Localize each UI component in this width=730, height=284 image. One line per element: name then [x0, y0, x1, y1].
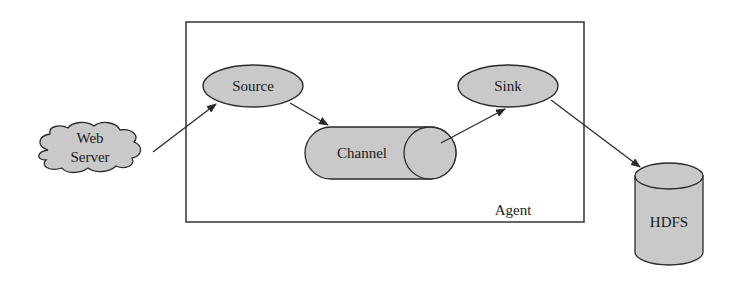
- channel-node: Channel: [305, 127, 456, 179]
- edge-webserver-to-source: [153, 104, 216, 152]
- web-server-node: Web Server: [39, 122, 141, 172]
- hdfs-node: HDFS: [635, 163, 703, 265]
- sink-label: Sink: [494, 78, 522, 94]
- edge-source-to-channel: [290, 103, 328, 125]
- web-server-label-line2: Server: [70, 149, 109, 165]
- source-label: Source: [232, 78, 274, 94]
- sink-node: Sink: [458, 65, 558, 107]
- agent-container: Agent: [186, 22, 584, 222]
- channel-label: Channel: [337, 145, 387, 161]
- edge-sink-to-hdfs: [551, 100, 640, 167]
- edge-channel-to-sink: [441, 109, 505, 143]
- source-node: Source: [203, 65, 303, 107]
- flume-architecture-diagram: Agent Web Server Source Channel Sink HDF…: [0, 0, 730, 284]
- agent-label: Agent: [495, 202, 532, 218]
- web-server-label-line1: Web: [76, 130, 103, 146]
- hdfs-label: HDFS: [650, 214, 688, 230]
